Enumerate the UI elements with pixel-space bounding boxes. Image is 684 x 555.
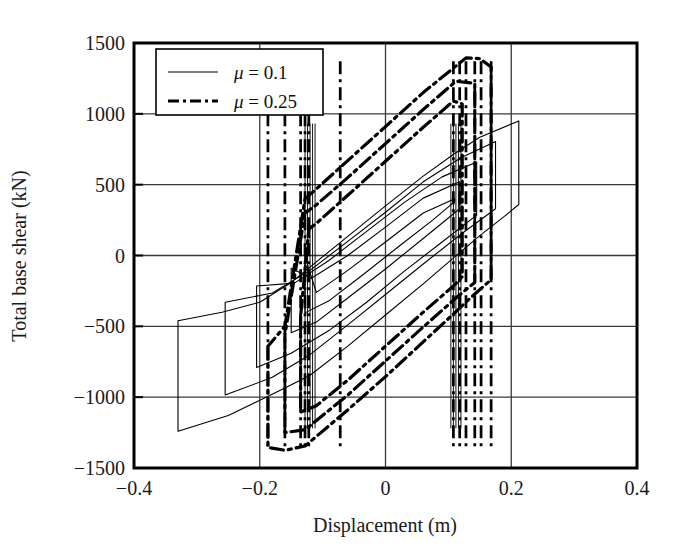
y-tick-label: −500 [84, 315, 125, 337]
chart-legend: μ = 0.1μ = 0.25 [156, 49, 323, 115]
x-tick-label: −0.4 [116, 477, 152, 499]
x-tick-label: −0.2 [242, 477, 278, 499]
x-tick-label: 0.2 [499, 477, 524, 499]
y-tick-label: 500 [95, 174, 125, 196]
y-tick-label: 0 [115, 245, 125, 267]
legend-label: μ = 0.25 [233, 91, 297, 112]
hysteresis-chart-figure: −0.4−0.200.20.4 −1500−1000−5000500100015… [0, 0, 684, 555]
y-tick-label: −1500 [74, 457, 125, 479]
y-tick-label: −1000 [74, 386, 125, 408]
chart-svg: −0.4−0.200.20.4 −1500−1000−5000500100015… [0, 0, 684, 555]
y-tick-label: 1500 [85, 32, 125, 54]
y-axis-title: Total base shear (kN) [8, 170, 31, 341]
y-tick-label: 1000 [85, 103, 125, 125]
x-axis-title: Displacement (m) [313, 514, 457, 537]
x-tick-label: 0 [381, 477, 391, 499]
x-tick-label: 0.4 [625, 477, 650, 499]
legend-label: μ = 0.1 [233, 62, 288, 83]
